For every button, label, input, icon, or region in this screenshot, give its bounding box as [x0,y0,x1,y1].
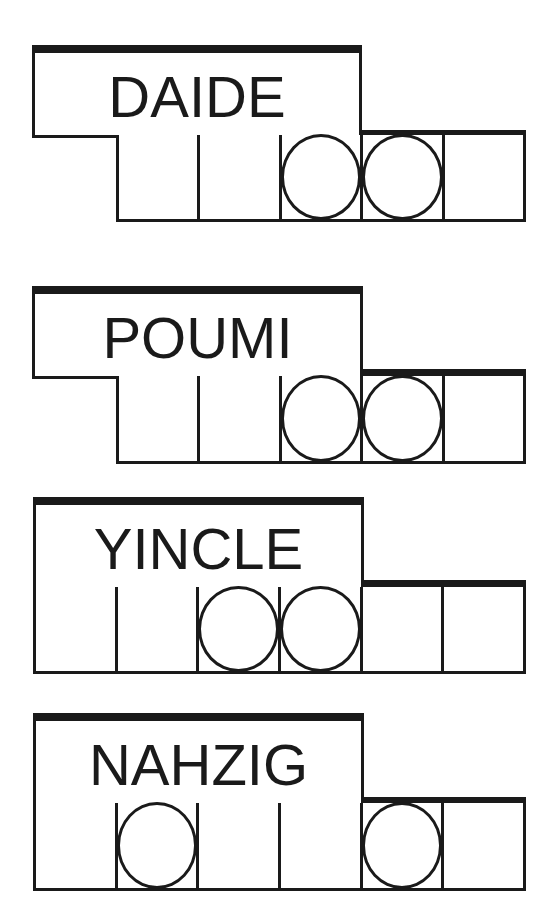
answer-cell[interactable] [119,135,200,219]
scrambled-word-box: POUMI [32,286,363,379]
answer-cell-circled[interactable] [282,376,363,461]
answer-cell-circled[interactable] [118,803,200,888]
answer-cell-circled[interactable] [199,587,281,671]
answer-cells [116,376,526,464]
scrambled-word-box: DAIDE [32,45,362,138]
scrambled-word: POUMI [102,303,292,367]
scrambled-word: DAIDE [108,62,285,126]
answer-cell[interactable] [445,376,526,461]
answer-cell[interactable] [444,803,526,888]
answer-cell-circled[interactable] [281,587,363,671]
scrambled-word-box: NAHZIG [33,713,364,806]
answer-cell[interactable] [200,135,281,219]
answer-cell[interactable] [119,376,200,461]
circle-icon [281,134,361,220]
answer-cells [116,135,526,222]
answer-cell[interactable] [199,803,281,888]
answer-cell[interactable] [36,803,118,888]
scrambled-word: YINCLE [94,514,304,578]
answer-cell-circled[interactable] [282,135,363,219]
circle-icon [362,802,443,889]
answer-cells [33,587,526,674]
circle-icon [280,586,361,672]
answer-cells [33,803,526,891]
circle-icon [362,134,442,220]
scrambled-word-box: YINCLE [33,497,364,590]
answer-cell-circled[interactable] [363,803,445,888]
answer-cell-circled[interactable] [363,376,444,461]
circle-icon [198,586,279,672]
answer-cell[interactable] [36,587,118,671]
answer-cell[interactable] [444,587,526,671]
scrambled-word: NAHZIG [89,730,308,794]
circle-icon [362,375,442,462]
circle-icon [117,802,198,889]
circle-icon [281,375,361,462]
answer-cell[interactable] [200,376,281,461]
answer-cell[interactable] [281,803,363,888]
answer-cell[interactable] [118,587,200,671]
answer-cell[interactable] [445,135,526,219]
answer-cell[interactable] [363,587,445,671]
answer-cell-circled[interactable] [363,135,444,219]
